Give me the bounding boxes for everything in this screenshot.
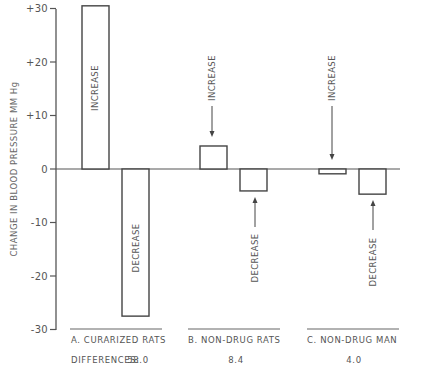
arrow-up-icon-head <box>253 197 258 203</box>
bar-b-decrease <box>240 169 267 191</box>
y-tick-label: +20 <box>26 57 48 68</box>
bar-a-decrease-label: DECREASE <box>131 224 141 273</box>
group-c-decrease-label: DECREASE <box>368 238 378 287</box>
y-tick-label: +30 <box>26 3 48 14</box>
bars <box>82 6 386 316</box>
category-label-b: B. NON-DRUG RATS <box>188 335 281 345</box>
bar-a-increase-label: INCREASE <box>90 65 100 111</box>
group-b-decrease-label: DECREASE <box>250 234 260 283</box>
y-tick-label: 0 <box>41 164 48 175</box>
arrow-down-icon-head <box>330 154 335 160</box>
arrow-down-icon-head <box>210 131 215 137</box>
difference-b: 8.4 <box>228 355 243 365</box>
y-tick-label: -10 <box>31 217 48 228</box>
category-label-a: A. CURARIZED RATS <box>71 335 166 345</box>
group-c-increase-label: INCREASE <box>327 55 337 101</box>
y-axis-ticks: +30+20+100-10-20-30 <box>26 3 56 335</box>
difference-a: 58.0 <box>127 355 148 365</box>
y-tick-label: -20 <box>31 271 48 282</box>
y-tick-label: -30 <box>31 324 48 335</box>
y-tick-label: +10 <box>26 110 48 121</box>
y-axis-title: CHANGE IN BLOOD PRESSURE MM Hg <box>9 81 19 256</box>
group-b-increase-label: INCREASE <box>207 55 217 101</box>
bar-c-increase <box>319 169 346 174</box>
bar-b-increase <box>200 146 227 169</box>
difference-c: 4.0 <box>346 355 361 365</box>
bar-c-decrease <box>359 169 386 194</box>
category-label-c: C. NON-DRUG MAN <box>307 335 397 345</box>
blood-pressure-chart: CHANGE IN BLOOD PRESSURE MM Hg +30+20+10… <box>0 0 427 370</box>
arrow-up-icon-head <box>371 200 376 206</box>
